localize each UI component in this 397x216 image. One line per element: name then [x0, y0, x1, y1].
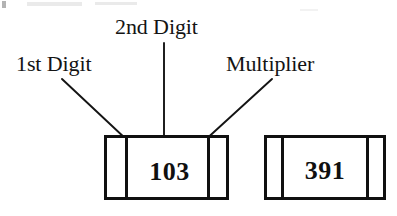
resistor-chip-left: 103 [104, 135, 229, 200]
resistor-code-value: 391 [305, 156, 346, 186]
resistor-body: 103 [128, 138, 207, 197]
resistor-code-figure: 1st Digit 2nd Digit Multiplier 103 [0, 0, 397, 216]
resistor-terminal-left [267, 138, 284, 197]
resistor-body: 391 [284, 138, 366, 197]
callout-label-first-digit: 1st Digit [16, 52, 92, 76]
callout-label-multiplier: Multiplier [226, 52, 314, 76]
resistor-chip-right: 391 [264, 135, 386, 200]
resistor-terminal-right [366, 138, 383, 197]
scan-artifact [95, 2, 137, 5]
resistor-code-value: 103 [149, 157, 190, 187]
scan-artifact [2, 1, 6, 8]
scan-artifact [300, 9, 318, 11]
resistor-terminal-right [207, 138, 226, 197]
callout-label-second-digit: 2nd Digit [115, 15, 198, 39]
scan-artifact [27, 2, 82, 6]
resistor-terminal-left [107, 138, 128, 197]
